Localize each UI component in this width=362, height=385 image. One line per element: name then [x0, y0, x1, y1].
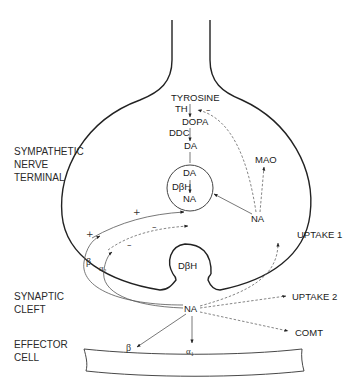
synthesis-pathway: TYROSINE TH DOPA DDC DA –	[169, 92, 220, 163]
svg-text:TH: TH	[175, 103, 188, 114]
svg-text:α₂: α₂	[99, 263, 106, 273]
svg-text:β: β	[126, 342, 131, 353]
cleft-na-label: NA	[184, 303, 198, 314]
cleft-na-fates: UPTAKE 1 UPTAKE 2 COMT	[200, 229, 342, 338]
svg-text:DβH: DβH	[172, 181, 191, 192]
noradrenergic-synapse-diagram: SYMPATHETIC NERVE TERMINAL SYNAPTIC CLEF…	[0, 0, 362, 385]
svg-text:SYNAPTIC: SYNAPTIC	[14, 291, 64, 302]
cytoplasmic-na: NA MAO	[198, 110, 277, 224]
presynaptic-receptor-loops: β + + α₂ – –	[84, 207, 188, 308]
postsynaptic-arrows: β α₁	[126, 314, 194, 356]
svg-text:UPTAKE 2: UPTAKE 2	[292, 291, 337, 302]
svg-text:+: +	[86, 229, 94, 239]
svg-text:β: β	[86, 256, 91, 267]
svg-text:+: +	[133, 207, 141, 217]
svg-text:SYMPATHETIC: SYMPATHETIC	[14, 146, 84, 157]
region-label-synaptic-cleft: SYNAPTIC CLEFT	[14, 291, 64, 315]
svg-text:NERVE: NERVE	[14, 159, 49, 170]
svg-text:DA: DA	[184, 140, 198, 151]
effector-cell-membrane	[84, 349, 304, 376]
svg-text:CLEFT: CLEFT	[14, 304, 46, 315]
svg-text:DDC: DDC	[169, 127, 190, 138]
svg-text:MAO: MAO	[255, 154, 277, 165]
svg-text:NA: NA	[251, 213, 265, 224]
svg-text:EFFECTOR: EFFECTOR	[14, 339, 68, 350]
svg-text:TERMINAL: TERMINAL	[14, 172, 65, 183]
svg-text:UPTAKE 1: UPTAKE 1	[297, 229, 342, 240]
region-label-effector-cell: EFFECTOR CELL	[14, 339, 68, 363]
svg-text:DA: DA	[183, 167, 197, 178]
svg-text:DOPA: DOPA	[182, 116, 209, 127]
svg-text:COMT: COMT	[295, 327, 323, 338]
svg-text:NA: NA	[183, 193, 197, 204]
svg-text:–: –	[152, 222, 157, 232]
released-dbh-label: DβH	[178, 260, 197, 271]
svg-text:TYROSINE: TYROSINE	[171, 92, 220, 103]
region-label-nerve-terminal: SYMPATHETIC NERVE TERMINAL	[14, 146, 84, 183]
storage-vesicle: DA DβH NA	[167, 165, 213, 211]
svg-text:CELL: CELL	[14, 352, 39, 363]
svg-text:–: –	[127, 240, 132, 250]
